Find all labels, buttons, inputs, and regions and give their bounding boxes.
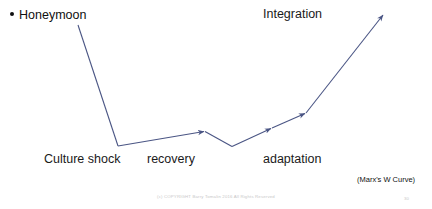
segment-adaptation-to-preintegration	[272, 114, 305, 129]
bullet-dot-icon	[10, 12, 14, 16]
label-culture-shock: Culture shock	[44, 152, 120, 166]
segment-honeymoon-to-culture-shock	[78, 25, 118, 146]
page-number: 30	[404, 196, 409, 201]
label-integration: Integration	[263, 7, 322, 21]
copyright-notice: (c) COPYRIGHT Barry Tomalin 2016 All Rig…	[0, 194, 432, 199]
label-source-note: (Marx's W Curve)	[357, 175, 415, 184]
segment-culture-shock-to-recovery	[118, 132, 204, 147]
label-recovery: recovery	[147, 152, 195, 166]
segment-dip-to-adaptation	[232, 129, 271, 147]
slide-canvas: Honeymoon Integration Culture shock reco…	[0, 0, 432, 209]
label-adaptation: adaptation	[263, 152, 321, 166]
curve-path-group	[78, 15, 383, 147]
segment-recovery-to-dip	[205, 132, 232, 147]
segment-preintegration-to-integration	[306, 15, 383, 113]
bullet-item-honeymoon: Honeymoon	[10, 9, 86, 22]
label-honeymoon: Honeymoon	[19, 9, 86, 22]
